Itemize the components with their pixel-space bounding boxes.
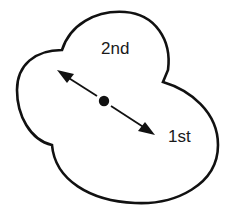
- label-1st: 1st: [168, 127, 191, 146]
- center-dot: [99, 96, 109, 106]
- lobed-diagram: 2nd 1st: [0, 0, 225, 213]
- label-2nd: 2nd: [101, 39, 129, 58]
